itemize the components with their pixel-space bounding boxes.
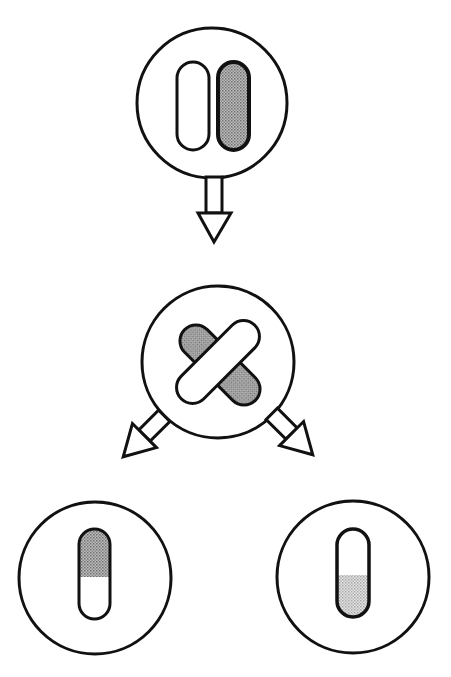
daughter-cell-left [19, 502, 171, 654]
cell-membrane [137, 28, 287, 178]
parent-cell [137, 28, 287, 178]
meiosis-diagram [0, 0, 451, 677]
chromosome-shaded-segment [79, 529, 110, 577]
chromosome-shaded [218, 62, 249, 150]
daughter-cell-right [277, 501, 429, 653]
chromosome-white [177, 62, 209, 150]
arrow-down-icon [198, 177, 231, 242]
diagram-canvas [0, 0, 451, 677]
